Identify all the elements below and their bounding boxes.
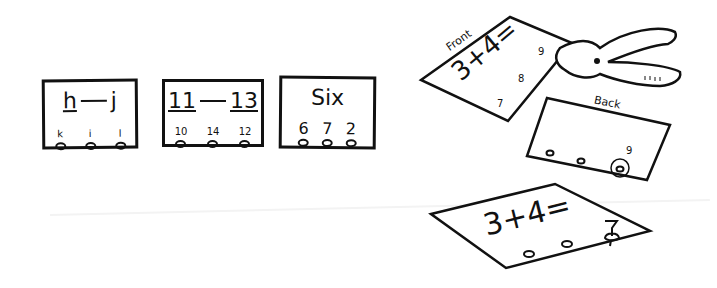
golf-tee-peg-icon [0,0,717,288]
